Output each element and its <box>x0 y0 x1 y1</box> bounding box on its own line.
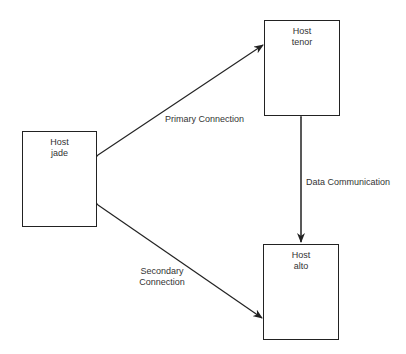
host-jade-box: Host jade <box>22 131 97 227</box>
host-tenor-box: Host tenor <box>264 20 340 116</box>
host-alto-box: Host alto <box>263 244 339 340</box>
host-alto-label-line2: alto <box>264 261 338 272</box>
host-tenor-label-line1: Host <box>265 26 339 37</box>
secondary-connection-label-line1: Secondary <box>138 266 186 277</box>
host-alto-label-line1: Host <box>264 250 338 261</box>
host-alto-label: Host alto <box>264 250 338 272</box>
host-jade-label-line1: Host <box>23 137 96 148</box>
secondary-connection-label: Secondary Connection <box>138 266 186 288</box>
secondary-connection-label-line2: Connection <box>138 277 186 288</box>
data-communication-label: Data Communication <box>306 177 390 188</box>
secondary-connection-arrow <box>98 205 262 318</box>
host-jade-label-line2: jade <box>23 148 96 159</box>
host-jade-label: Host jade <box>23 137 96 159</box>
host-tenor-label-line2: tenor <box>265 37 339 48</box>
host-tenor-label: Host tenor <box>265 26 339 48</box>
primary-connection-arrow <box>98 45 263 155</box>
primary-connection-label: Primary Connection <box>165 114 244 125</box>
